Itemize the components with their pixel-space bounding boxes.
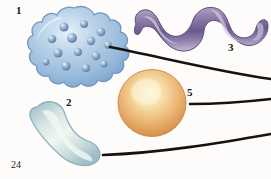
leader-line-from-bacillus	[103, 134, 271, 155]
organism-label-2: 2	[66, 97, 72, 108]
leader-line-from-coccus	[190, 99, 271, 104]
microorganism-illustration	[0, 0, 271, 179]
organism-bacillus-2	[30, 102, 100, 166]
organism-label-5: 5	[187, 87, 193, 98]
organism-label-1: 1	[16, 5, 22, 16]
organism-spirochete-3	[134, 7, 268, 51]
organism-label-3: 3	[228, 42, 234, 53]
organism-coccus-5	[118, 70, 186, 137]
illustration-page: 1 2 3 5 24	[0, 0, 271, 179]
page-number: 24	[11, 160, 21, 170]
